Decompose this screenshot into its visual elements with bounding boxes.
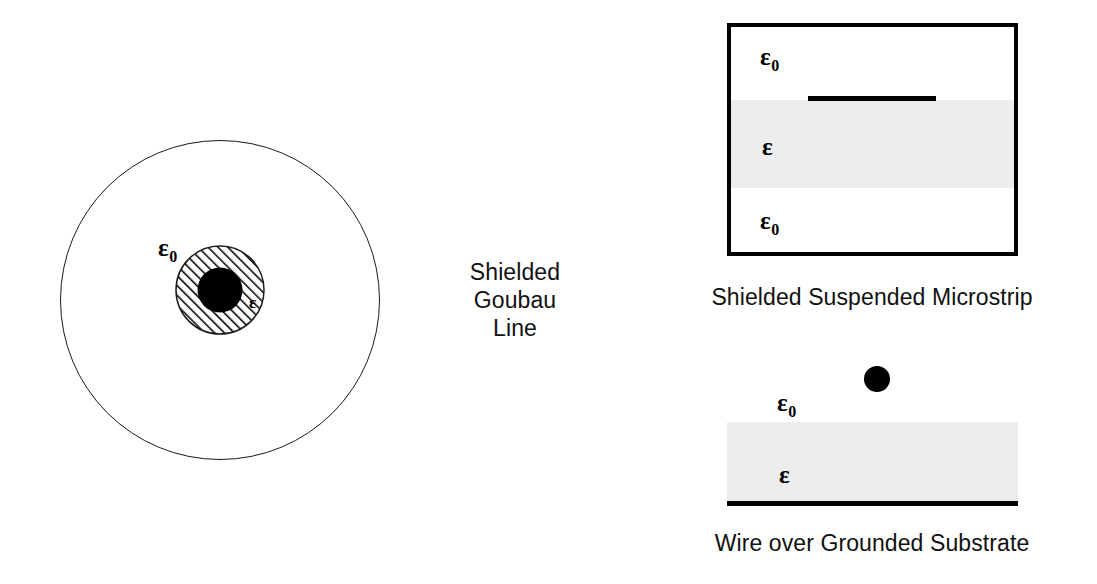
shield-enclosure-box: ε0 ε ε0 — [727, 23, 1018, 256]
dielectric-substrate — [727, 422, 1018, 503]
wire-substrate-permittivity-label: ε — [779, 462, 790, 487]
goubau-dielectric-group — [160, 230, 280, 350]
panel-shielded-goubau-line: ε0 ε Shielded Goubau Line — [0, 0, 430, 584]
microstrip-lower-air-permittivity-label: ε0 — [760, 208, 779, 233]
epsilon-glyph: ε — [760, 43, 771, 70]
epsilon-subscript: 0 — [788, 403, 796, 420]
microstrip-upper-air-permittivity-label: ε0 — [760, 44, 779, 69]
epsilon-glyph: ε — [760, 207, 771, 234]
microstrip-slab-permittivity-label: ε — [762, 134, 773, 159]
epsilon-glyph: ε — [779, 461, 790, 488]
epsilon-glyph: ε — [158, 234, 169, 261]
wire-conductor — [864, 366, 890, 392]
wire-air-permittivity-label: ε0 — [777, 390, 796, 415]
caption-wire-over-grounded-substrate: Wire over Grounded Substrate — [687, 529, 1057, 557]
dielectric-slab — [731, 100, 1014, 188]
caption-shielded-suspended-microstrip: Shielded Suspended Microstrip — [687, 283, 1057, 311]
figure-canvas: ε0 ε Shielded Goubau Line ε0 ε — [0, 0, 1097, 584]
goubau-dielectric-permittivity-label: ε — [249, 294, 256, 311]
epsilon-glyph: ε — [249, 293, 256, 312]
epsilon-glyph: ε — [762, 133, 773, 160]
epsilon-subscript: 0 — [771, 221, 779, 238]
epsilon-glyph: ε — [777, 389, 788, 416]
epsilon-subscript: 0 — [771, 57, 779, 74]
goubau-outer-permittivity-label: ε0 — [158, 235, 177, 260]
strip-conductor — [808, 96, 936, 101]
epsilon-subscript: 0 — [169, 248, 177, 265]
ground-plane — [727, 501, 1018, 506]
caption-shielded-goubau-line: Shielded Goubau Line — [430, 258, 600, 342]
